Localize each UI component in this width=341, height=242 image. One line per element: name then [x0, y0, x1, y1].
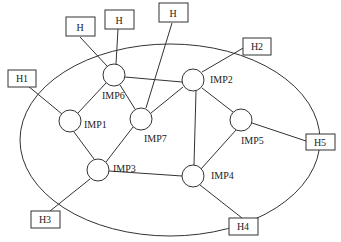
host-h-c-label: H	[169, 8, 176, 19]
link-imp2-imp4	[194, 91, 196, 165]
imp-nodes: IMP1 IMP2 IMP3 IMP4 IMP5 IMP6 IMP7	[59, 64, 264, 187]
imp7-label: IMP7	[144, 133, 167, 144]
imp1-label: IMP1	[84, 119, 107, 130]
imp5-node	[230, 109, 252, 131]
imp4-node	[182, 165, 204, 187]
imp6-label: IMP6	[102, 90, 125, 101]
subnet-boundary	[20, 44, 320, 236]
link-h3-imp3	[50, 179, 90, 211]
link-imp2-imp5	[202, 88, 233, 112]
link-imp5-imp4	[201, 130, 236, 169]
host-h3-label: H3	[39, 214, 51, 225]
link-h4-imp4	[200, 185, 242, 218]
host-h2-label: H2	[251, 41, 263, 52]
host-h-a-label: H	[76, 22, 83, 33]
link-imp7-imp3	[106, 127, 133, 162]
host-h5-label: H5	[314, 137, 326, 148]
imp4-label: IMP4	[211, 170, 234, 181]
imp1-node	[59, 110, 81, 132]
imp3-label: IMP3	[113, 163, 136, 174]
link-imp1-imp3	[74, 132, 94, 159]
imp3-node	[87, 159, 109, 181]
host-h-b-label: H	[115, 15, 122, 26]
imp7-node	[130, 108, 152, 130]
host-h1-label: H1	[16, 73, 28, 84]
host-nodes: H H H H1 H2 H3 H4 H5	[8, 3, 335, 235]
link-h-c-imp7	[146, 23, 172, 108]
imp2-node	[182, 69, 204, 91]
imp5-label: IMP5	[241, 135, 264, 146]
host-h4-label: H4	[237, 221, 249, 232]
link-imp7-imp2	[151, 87, 183, 113]
link-imp6-imp2	[125, 77, 182, 82]
network-diagram: IMP1 IMP2 IMP3 IMP4 IMP5 IMP6 IMP7 H H H…	[0, 0, 341, 242]
imp6-node	[103, 64, 125, 86]
link-h-b-imp6	[116, 29, 118, 64]
imp2-label: IMP2	[210, 74, 233, 85]
